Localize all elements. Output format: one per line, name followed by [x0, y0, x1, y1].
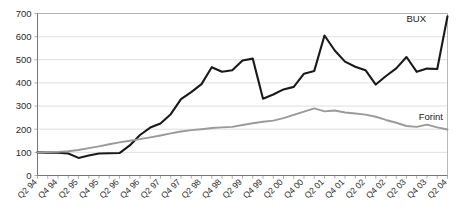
x-tick-label: Q4 00 — [282, 177, 306, 201]
y-tick-label: 200 — [16, 124, 32, 135]
line-chart: 0100200300400500600700 Q2 94Q4 94Q2 95Q4… — [0, 0, 459, 222]
x-tick-label: Q2 99 — [220, 177, 244, 201]
chart-container: 0100200300400500600700 Q2 94Q4 94Q2 95Q4… — [0, 0, 459, 222]
x-tick-labels: Q2 94Q4 94Q2 95Q4 95Q2 96Q4 96Q2 97Q4 97… — [15, 177, 449, 201]
x-tick-label: Q4 96 — [118, 177, 142, 201]
series-label-forint: Forint — [419, 111, 444, 122]
y-tick-label: 100 — [16, 147, 32, 158]
plot-area-border — [38, 14, 448, 176]
y-tick-label: 700 — [16, 8, 32, 19]
x-tick-label: Q4 02 — [364, 177, 388, 201]
series-line-forint — [38, 108, 448, 152]
x-tick-label: Q2 04 — [425, 177, 449, 201]
x-tick-label: Q4 03 — [405, 177, 429, 201]
grid-lines — [38, 14, 448, 153]
y-tick-label: 600 — [16, 31, 32, 42]
x-tick-label: Q4 98 — [200, 177, 224, 201]
y-tick-labels: 0100200300400500600700 — [16, 8, 32, 181]
x-tick-label: Q4 99 — [241, 177, 265, 201]
x-tick-label: Q4 01 — [323, 177, 347, 201]
y-tick-label: 500 — [16, 54, 32, 65]
y-axis — [35, 14, 38, 176]
x-tick-label: Q2 95 — [56, 177, 80, 201]
y-tick-label: 300 — [16, 100, 32, 111]
x-tick-label: Q2 02 — [343, 177, 367, 201]
x-tick-label: Q4 97 — [159, 177, 183, 201]
x-tick-label: Q2 94 — [15, 177, 39, 201]
x-tick-label: Q2 96 — [97, 177, 121, 201]
x-tick-label: Q2 00 — [261, 177, 285, 201]
data-series — [38, 16, 448, 158]
x-tick-label: Q4 94 — [36, 177, 60, 201]
x-tick-label: Q2 97 — [138, 177, 162, 201]
y-tick-label: 400 — [16, 77, 32, 88]
series-label-bux: BUX — [406, 13, 426, 24]
series-line-bux — [38, 16, 448, 158]
x-tick-label: Q2 01 — [302, 177, 326, 201]
x-tick-label: Q2 03 — [384, 177, 408, 201]
x-tick-label: Q4 95 — [77, 177, 101, 201]
x-axis — [38, 176, 448, 179]
x-tick-label: Q2 98 — [179, 177, 203, 201]
